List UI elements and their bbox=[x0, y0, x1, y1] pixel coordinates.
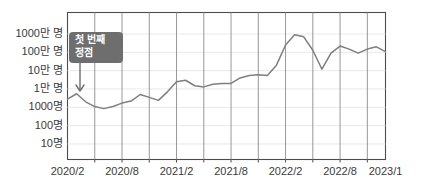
y-axis-labels: 1000만 명100만 명10만 명1만 명1000명100명10명 bbox=[15, 27, 63, 149]
y-axis-tick-label: 10명 bbox=[41, 137, 63, 149]
x-axis-tick-label: 2022/8 bbox=[323, 165, 357, 177]
y-axis-tick-label: 100명 bbox=[35, 119, 63, 131]
y-axis-tick-label: 1만 명 bbox=[34, 82, 63, 94]
x-axis-tick-label: 2020/2 bbox=[51, 165, 85, 177]
y-axis-tick-label: 1000만 명 bbox=[15, 27, 63, 39]
x-axis-tick-label: 2021/8 bbox=[214, 165, 248, 177]
x-axis-tick-label: 2020/8 bbox=[105, 165, 139, 177]
y-axis-tick-label: 10만 명 bbox=[28, 64, 63, 76]
x-axis-tick-label: 2022/2 bbox=[269, 165, 303, 177]
x-axis-tick-label: 2023/1 bbox=[369, 165, 403, 177]
y-axis-tick-label: 1000명 bbox=[29, 100, 63, 112]
y-axis-tick-label: 100만 명 bbox=[22, 45, 63, 57]
annotation-label-line2: 정점 bbox=[75, 46, 93, 58]
chart-container: 1000만 명100만 명10만 명1만 명1000명100명10명 2020/… bbox=[0, 0, 423, 191]
x-axis-labels: 2020/22020/82021/22021/82022/22022/82023… bbox=[51, 165, 403, 177]
x-axis-tick-label: 2021/2 bbox=[160, 165, 194, 177]
line-chart: 1000만 명100만 명10만 명1만 명1000명100명10명 2020/… bbox=[0, 0, 423, 191]
annotation-label-line1: 첫 번째 bbox=[75, 33, 105, 45]
